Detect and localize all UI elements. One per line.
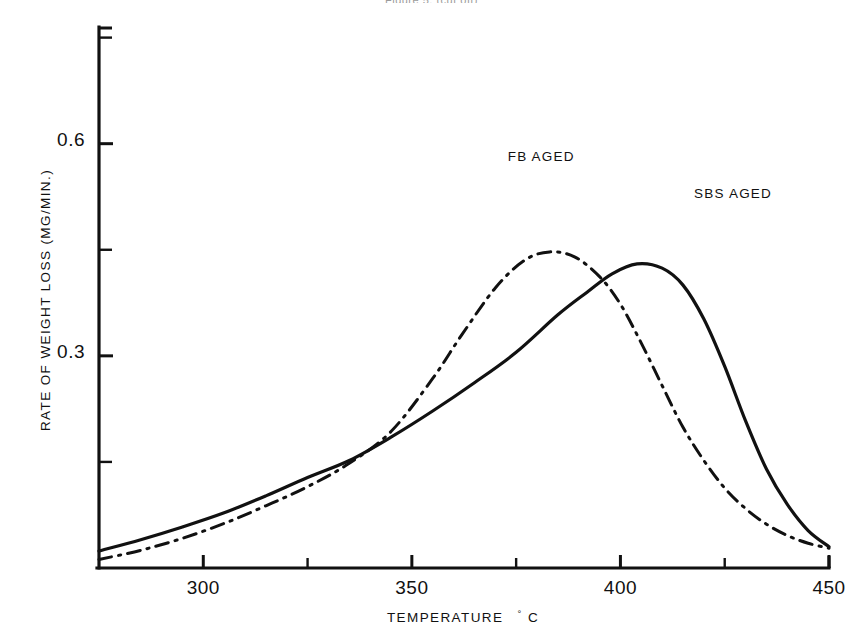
series-label-sbs-aged: SBS AGED <box>694 186 772 201</box>
data-series-group <box>99 252 829 560</box>
y-axis-title: RATE OF WEIGHT LOSS (MG/MIN.) <box>38 169 53 431</box>
x-axis-title: TEMPERATURE ° C <box>387 605 539 625</box>
x-tick-label: 400 <box>604 577 637 598</box>
series-line-fb-aged <box>99 252 829 560</box>
x-tick-label: 300 <box>187 577 220 598</box>
chart-canvas: 0.30.6 300350400450 FB AGED SBS AGED TEM… <box>0 0 863 644</box>
y-axis-tick-labels: 0.30.6 <box>57 129 85 362</box>
y-axis-ticks <box>99 38 113 462</box>
figure-container: Figure 5. (cut off) 0.30.6 300350400450 … <box>0 0 863 644</box>
x-axis-tick-labels: 300350400450 <box>187 577 846 598</box>
x-axis-ticks <box>203 555 829 568</box>
x-axis-degree-symbol: ° <box>518 608 523 619</box>
series-line-sbs-aged <box>99 264 829 551</box>
y-tick-label: 0.6 <box>57 129 85 150</box>
axes-group <box>97 27 829 568</box>
x-tick-label: 350 <box>395 577 428 598</box>
x-tick-label: 450 <box>812 577 845 598</box>
x-axis-unit: C <box>528 610 539 625</box>
series-label-fb-aged: FB AGED <box>508 149 575 164</box>
y-tick-label: 0.3 <box>57 341 85 362</box>
x-axis-title-main: TEMPERATURE <box>387 610 503 625</box>
